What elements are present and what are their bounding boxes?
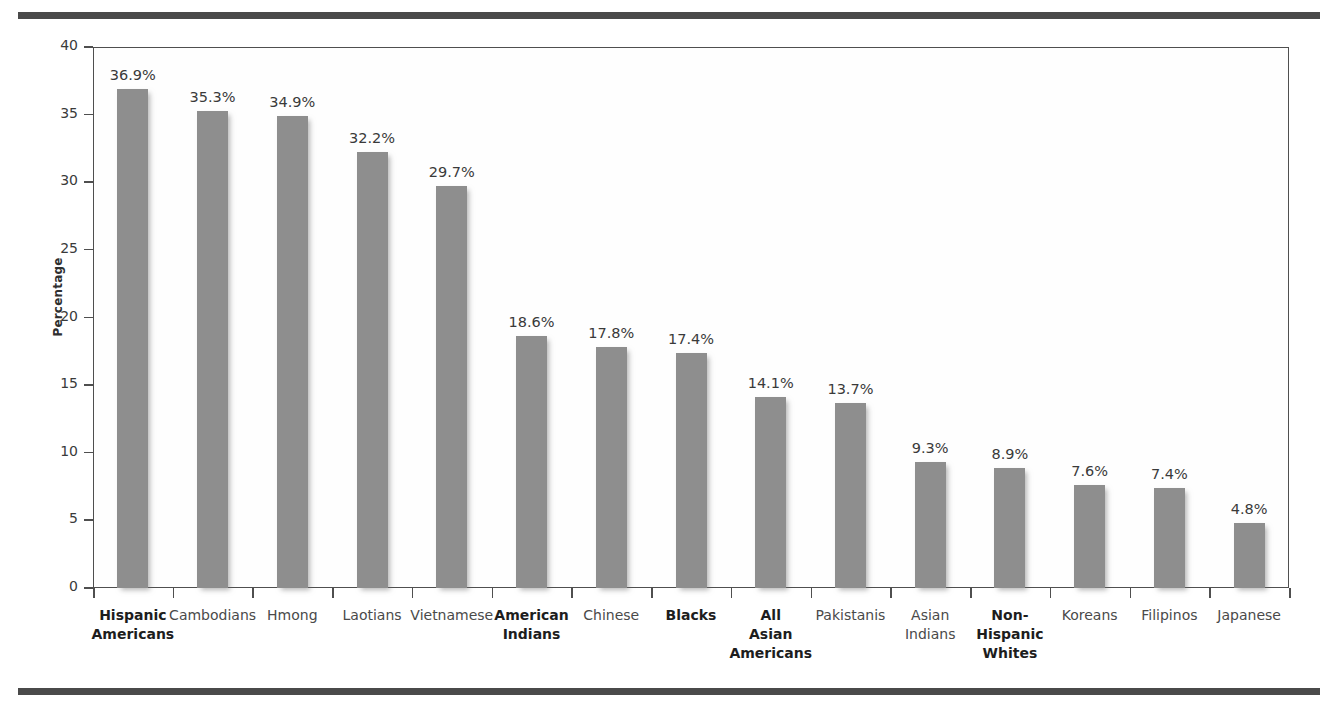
bar-value-label: 17.4% xyxy=(646,331,736,347)
x-axis-tick xyxy=(412,588,414,598)
x-axis-tick xyxy=(1209,588,1211,598)
bar[interactable] xyxy=(1234,523,1265,588)
x-axis-tick xyxy=(332,588,334,598)
bar-value-label: 32.2% xyxy=(327,130,417,146)
x-axis-tick xyxy=(651,588,653,598)
x-axis-category-label: Japanese xyxy=(1197,606,1301,625)
x-axis-tick xyxy=(173,588,175,598)
y-tick-mark xyxy=(84,46,93,48)
bar-value-label: 35.3% xyxy=(168,89,258,105)
bar[interactable] xyxy=(1074,485,1105,588)
y-tick-label: 40 xyxy=(60,37,78,53)
y-tick-label: 20 xyxy=(60,308,78,324)
bar-chart-figure: Percentage 0510152025303540 36.9%35.3%34… xyxy=(0,28,1338,678)
x-axis-tick xyxy=(811,588,813,598)
bar-value-label: 17.8% xyxy=(566,325,656,341)
y-tick-mark xyxy=(84,452,93,454)
bar[interactable] xyxy=(357,152,388,588)
x-axis-tick xyxy=(93,588,95,598)
bar[interactable] xyxy=(197,111,228,588)
x-axis-tick xyxy=(1289,588,1291,598)
bar-value-label: 29.7% xyxy=(407,164,497,180)
bar[interactable] xyxy=(277,116,308,588)
y-tick-label: 10 xyxy=(60,443,78,459)
bar-value-label: 8.9% xyxy=(965,446,1055,462)
y-tick-mark xyxy=(84,519,93,521)
y-tick-label: 5 xyxy=(69,510,78,526)
bar-value-label: 13.7% xyxy=(805,381,895,397)
y-tick-mark xyxy=(84,249,93,251)
bar[interactable] xyxy=(436,186,467,588)
x-axis-tick xyxy=(252,588,254,598)
y-tick-mark xyxy=(84,114,93,116)
bar-value-label: 7.4% xyxy=(1124,466,1214,482)
bar[interactable] xyxy=(516,336,547,588)
x-axis-tick xyxy=(571,588,573,598)
x-axis-tick xyxy=(970,588,972,598)
y-tick-label: 0 xyxy=(69,578,78,594)
y-tick-label: 15 xyxy=(60,375,78,391)
bar[interactable] xyxy=(596,347,627,588)
y-tick-mark xyxy=(84,384,93,386)
bar-value-label: 36.9% xyxy=(88,67,178,83)
top-rule xyxy=(18,12,1320,19)
bar[interactable] xyxy=(676,353,707,588)
bar[interactable] xyxy=(117,89,148,588)
y-tick-label: 35 xyxy=(60,105,78,121)
y-tick-label: 25 xyxy=(60,240,78,256)
bottom-rule xyxy=(18,688,1320,695)
bar[interactable] xyxy=(994,468,1025,588)
bar[interactable] xyxy=(755,397,786,588)
x-axis-tick xyxy=(492,588,494,598)
y-tick-label: 30 xyxy=(60,172,78,188)
x-axis-tick xyxy=(1130,588,1132,598)
x-axis-tick xyxy=(731,588,733,598)
x-axis-tick xyxy=(890,588,892,598)
bar-value-label: 18.6% xyxy=(487,314,577,330)
x-axis-tick xyxy=(1050,588,1052,598)
bar-value-label: 7.6% xyxy=(1045,463,1135,479)
y-tick-mark xyxy=(84,181,93,183)
bar[interactable] xyxy=(835,403,866,588)
bar-value-label: 9.3% xyxy=(885,440,975,456)
bar-value-label: 4.8% xyxy=(1204,501,1294,517)
bar[interactable] xyxy=(915,462,946,588)
bar-value-label: 34.9% xyxy=(247,94,337,110)
y-tick-mark xyxy=(84,587,93,589)
y-tick-mark xyxy=(84,317,93,319)
bar[interactable] xyxy=(1154,488,1185,588)
bar-value-label: 14.1% xyxy=(726,375,816,391)
